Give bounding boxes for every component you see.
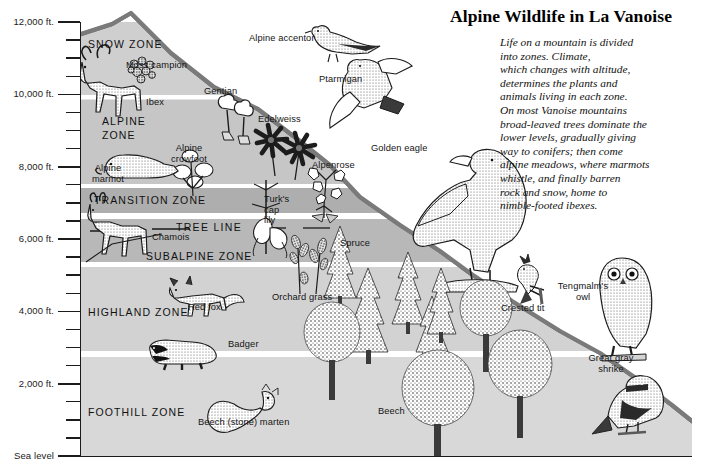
zone-label-alpine-line2: ZONE <box>102 128 146 142</box>
intro-line: into zones. Climate, <box>500 50 700 64</box>
intro-line: animals living in each zone. <box>500 90 700 104</box>
axis-tick-label: 2,000 ft. <box>19 378 54 389</box>
caption-owl-line2: owl <box>552 292 614 303</box>
axis-tick-minor <box>66 76 80 77</box>
beech-illustration <box>402 350 474 468</box>
caption-orchard-grass: Orchard grass <box>272 292 332 303</box>
axis-tick-minor <box>66 39 80 40</box>
caption-tengmalms-owl: Tengmalm's owl <box>552 281 614 302</box>
axis-tick-minor <box>66 401 80 402</box>
axis-tick-minor <box>66 274 80 275</box>
axis-tick-minor <box>66 419 80 420</box>
intro-line: On most Vanoise mountains <box>500 104 700 118</box>
baseline-axis <box>80 456 692 457</box>
caption-great-gray-shrike: Great gray shrike <box>580 353 642 374</box>
axis-tick-major <box>58 21 80 23</box>
caption-turks-line1: Turk's <box>264 194 304 205</box>
badger-illustration <box>150 340 217 370</box>
zone-label-transition: TRANSITION ZONE <box>94 194 206 206</box>
axis-tick-major <box>58 383 80 385</box>
axis-tick-minor <box>66 256 80 257</box>
intro-line: determines the plants and <box>500 77 700 91</box>
caption-alpenrose: Alpenrose <box>312 160 355 171</box>
caption-alpine-crowfoot: Alpine crowfoot <box>160 143 218 164</box>
caption-alpine-marmot-line1: Alpine <box>84 163 132 174</box>
axis-tick-label: 10,000 ft. <box>13 88 54 99</box>
caption-owl-line1: Tengmalm's <box>552 281 614 292</box>
axis-tick-major <box>58 94 80 96</box>
zone-label-alpine-line1: ALPINE <box>102 114 146 128</box>
zone-label-alpine: ALPINE ZONE <box>102 114 146 142</box>
intro-line: whistle, and finally barren <box>500 172 700 186</box>
axis-tick-minor <box>66 329 80 330</box>
caption-chamois: Chamois <box>152 232 189 243</box>
axis-tick-minor <box>66 184 80 185</box>
caption-beech-marten: Beech (stone) marten <box>198 417 289 428</box>
caption-moss-campion: Moss campion <box>126 60 187 71</box>
zone-label-foothill: FOOTHILL ZONE <box>88 406 185 418</box>
axis-tick-minor <box>66 112 80 113</box>
caption-beech: Beech <box>378 406 405 417</box>
axis-tick-minor <box>66 293 80 294</box>
beech-illustration <box>304 302 360 400</box>
axis-tick-label: 8,000 ft. <box>19 161 54 172</box>
axis-tick-major <box>58 238 80 240</box>
caption-alpine-marmot: Alpine marmot <box>84 163 132 184</box>
zone-label-highland: HIGHLAND ZONE <box>88 306 189 318</box>
caption-shrike-line2: shrike <box>580 364 642 375</box>
axis-tick-minor <box>66 365 80 366</box>
caption-alpine-accentor: Alpine accentor <box>249 33 315 44</box>
axis-tick-major <box>58 311 80 313</box>
caption-ptarmigan: Ptarmigan <box>319 74 362 85</box>
intro-line: rock and snow, home to <box>500 186 700 200</box>
caption-ibex: Ibex <box>146 97 164 108</box>
caption-golden-eagle: Golden eagle <box>371 143 428 154</box>
caption-crested-tit: Crested tit <box>501 303 544 314</box>
intro-paragraph: Life on a mountain is dividedinto zones.… <box>500 36 700 213</box>
intro-line: which changes with altitude, <box>500 63 700 77</box>
caption-turks-line2: cap <box>264 205 304 216</box>
zone-label-subalpine: SUBALPINE ZONE <box>146 250 252 262</box>
altitude-axis-line <box>80 22 81 457</box>
gentian-illustration <box>218 94 253 144</box>
intro-line: alpine meadows, where marmots <box>500 158 700 172</box>
caption-alpine-crowfoot-line1: Alpine <box>160 143 218 154</box>
page-title: Alpine Wildlife in La Vanoise <box>425 6 697 27</box>
great-gray-shrike-illustration <box>592 376 664 434</box>
intro-line: way to conifers; then come <box>500 145 700 159</box>
caption-red-fox: Red fox <box>188 302 221 313</box>
ibex-illustration <box>80 45 141 116</box>
axis-tick-minor <box>66 347 80 348</box>
caption-spruce: Spruce <box>340 238 370 249</box>
caption-turks-line3: lily <box>264 215 304 226</box>
axis-tick-minor <box>66 202 80 203</box>
infographic-canvas: 12,000 ft.10,000 ft.8,000 ft.6,000 ft.4,… <box>0 0 704 476</box>
edelweiss-illustration <box>256 125 315 180</box>
caption-alpine-crowfoot-line2: crowfoot <box>160 154 218 165</box>
axis-tick-label: 6,000 ft. <box>19 233 54 244</box>
axis-tick-minor <box>66 130 80 131</box>
caption-edelweiss: Edelweiss <box>258 114 301 125</box>
caption-shrike-line1: Great gray <box>580 353 642 364</box>
axis-tick-minor <box>66 148 80 149</box>
axis-tick-label: 12,000 ft. <box>13 16 54 27</box>
axis-tick-major <box>58 166 80 168</box>
caption-alpine-marmot-line2: marmot <box>84 174 132 185</box>
beech-illustration <box>488 330 552 438</box>
axis-tick-minor <box>66 437 80 438</box>
intro-line: nimble-footed ibexes. <box>500 199 700 213</box>
caption-turks-cap-lily: Turk's cap lily <box>264 194 304 226</box>
axis-tick-minor <box>66 220 80 221</box>
axis-tick-label: 4,000 ft. <box>19 305 54 316</box>
caption-gentian: Gentian <box>204 86 237 97</box>
axis-tick-minor <box>66 57 80 58</box>
intro-line: broad-leaved trees dominate the <box>500 118 700 132</box>
intro-line: Life on a mountain is divided <box>500 36 700 50</box>
intro-line: lower levels, gradually giving <box>500 131 700 145</box>
axis-tick-label: Sea level <box>14 450 54 461</box>
caption-badger: Badger <box>228 339 259 350</box>
zone-label-snow: SNOW ZONE <box>88 38 163 50</box>
axis-tick-major <box>58 455 80 457</box>
